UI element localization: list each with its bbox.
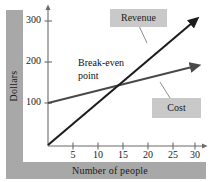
xlabel-text: Number of people: [72, 165, 148, 176]
break-even-label-line2: point: [78, 70, 99, 81]
y-tick-label-100: 100: [26, 96, 41, 107]
break-even-label-line1: Break-even: [78, 57, 124, 68]
y-tick-label-200: 200: [26, 55, 41, 66]
callout-revenue-label: Revenue: [121, 12, 157, 23]
x-tick-label-25: 25: [168, 149, 178, 160]
y-tick-label-300: 300: [26, 14, 41, 25]
chart-figure: Dollars Number of people 300 200 100 5: [0, 0, 212, 182]
break-even-chart: Dollars Number of people 300 200 100 5: [0, 0, 212, 182]
xlabel-band: Number of people: [6, 162, 206, 179]
x-tick-label-5: 5: [71, 149, 76, 160]
ylabel-band: Dollars: [6, 10, 23, 162]
ylabel-text: Dollars: [8, 71, 19, 102]
x-tick-label-15: 15: [118, 149, 128, 160]
x-tick-label-20: 20: [143, 149, 153, 160]
x-tick-label-30: 30: [190, 149, 200, 160]
x-tick-label-10: 10: [93, 149, 103, 160]
callout-cost-label: Cost: [167, 102, 186, 113]
chart-background: [0, 0, 212, 182]
